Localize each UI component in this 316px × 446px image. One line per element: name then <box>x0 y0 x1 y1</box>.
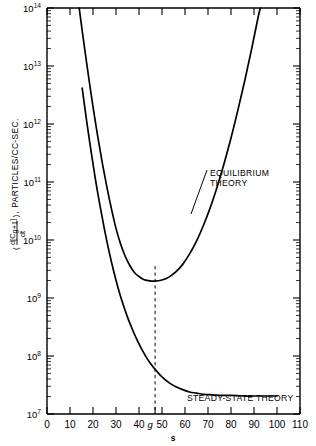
y-tick-mantissa: 10 <box>24 177 35 188</box>
y-title-bracket-close: ] <box>8 219 17 221</box>
y-tick-exponent: 11 <box>34 176 41 183</box>
equilibrium-annotation-line2: THEORY <box>210 178 247 188</box>
annotation-equilibrium-theory: EQUILIBRIUM THEORY <box>191 168 269 214</box>
x-tick-label-40: 40 <box>133 419 145 430</box>
y-tick-mantissa: 10 <box>23 119 34 130</box>
x-tick-label-110: 110 <box>292 419 308 430</box>
y-tick-mantissa: 10 <box>27 409 38 420</box>
y-title-denominator: dt <box>18 231 27 237</box>
g-tick-label: g <box>147 419 153 430</box>
y-axis-tick-labels: 10710810910101011101210131014 <box>23 2 41 420</box>
y-title-comma: , <box>10 211 20 214</box>
x-axis-title: s <box>171 433 176 443</box>
annotation-steady-state-theory: STEADY-STATE THEORY <box>187 393 293 403</box>
equilibrium-annotation-line1: EQUILIBRIUM <box>210 168 269 178</box>
y-tick-mantissa: 10 <box>23 61 34 72</box>
y-tick-exponent: 10 <box>34 234 42 241</box>
y-axis-major-ticks <box>47 8 300 414</box>
y-tick-label-9: 109 <box>27 292 42 304</box>
x-tick-label-0: 0 <box>44 419 50 430</box>
y-tick-exponent: 7 <box>37 408 41 415</box>
x-tick-label-60: 60 <box>179 419 191 430</box>
plot-frame <box>47 8 300 414</box>
y-tick-exponent: 8 <box>37 350 41 357</box>
y-tick-mantissa: 10 <box>23 3 34 14</box>
equilibrium-leader-line <box>191 170 207 214</box>
x-tick-label-10: 10 <box>64 419 76 430</box>
y-tick-mantissa: 10 <box>27 351 38 362</box>
chart-svg: 10710810910101011101210131014 0102030405… <box>0 0 316 446</box>
y-tick-exponent: 14 <box>34 2 42 9</box>
y-title-units: PARTICLES/CC-SEC. <box>10 118 20 207</box>
figure-container: 10710810910101011101210131014 0102030405… <box>0 0 316 446</box>
x-tick-label-70: 70 <box>202 419 214 430</box>
x-tick-label-30: 30 <box>110 419 122 430</box>
y-tick-exponent: 13 <box>34 60 42 67</box>
y-tick-exponent: 12 <box>34 118 42 125</box>
y-tick-mantissa: 10 <box>27 293 38 304</box>
x-tick-label-20: 20 <box>87 419 99 430</box>
y-tick-label-8: 108 <box>27 350 42 362</box>
x-tick-label-80: 80 <box>225 419 237 430</box>
y-axis-minor-ticks <box>47 11 300 397</box>
y-tick-label-14: 1014 <box>23 2 41 14</box>
y-tick-label-11: 1011 <box>24 176 42 188</box>
curve-steady-state-theory <box>82 88 277 396</box>
x-axis-major-ticks <box>47 8 300 414</box>
x-tick-label-50: 50 <box>156 419 168 430</box>
y-tick-label-13: 1013 <box>23 60 41 72</box>
steady-state-annotation: STEADY-STATE THEORY <box>187 393 293 403</box>
x-axis-tick-labels: 0102030405060708090100110 <box>44 419 308 430</box>
y-title-open-paren: ( <box>11 247 20 250</box>
y-tick-exponent: 9 <box>37 292 41 299</box>
x-tick-label-100: 100 <box>269 419 286 430</box>
special-x-tick-g: g <box>147 407 155 430</box>
y-title-close-paren: ) <box>11 214 20 217</box>
y-tick-label-7: 107 <box>27 408 42 420</box>
x-tick-label-90: 90 <box>248 419 260 430</box>
y-tick-label-12: 1012 <box>23 118 41 130</box>
